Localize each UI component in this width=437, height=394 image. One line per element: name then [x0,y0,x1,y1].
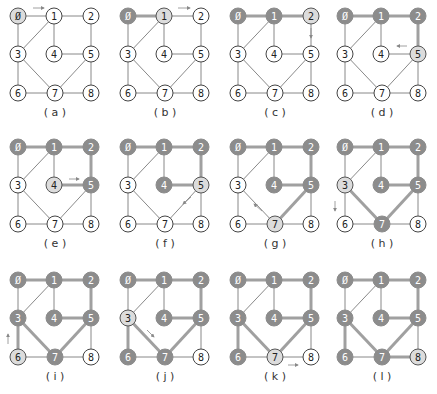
graph-node-1-unvisited: 1 [46,8,62,24]
graph-node-5-visited: 5 [303,177,319,193]
graph-node-3-visited: 3 [10,310,26,326]
graph-node-8-current: 8 [410,349,426,365]
panel-c: Ø12345678( c ) [230,8,319,119]
graph-node-0-visited: Ø [337,139,353,155]
graph-node-2-visited: 2 [83,139,99,155]
node-label: 1 [378,142,384,153]
node-label: 2 [415,275,421,286]
graph-node-5-unvisited: 5 [303,46,319,62]
graph-node-8-unvisited: 8 [83,349,99,365]
node-label: 2 [308,11,314,22]
graph-node-6-visited: 6 [230,349,246,365]
graph-node-6-unvisited: 6 [230,216,246,232]
node-label: 8 [198,88,204,99]
node-label: 3 [15,180,21,191]
panel-caption: ( c ) [264,106,286,119]
node-label: 8 [415,352,421,363]
graph-node-2-visited: 2 [83,272,99,288]
graph-node-6-visited: 6 [337,349,353,365]
node-label: 2 [88,11,94,22]
graph-node-0-visited: Ø [230,272,246,288]
node-label: 4 [271,49,277,60]
node-label: Ø [15,11,21,22]
graph-node-1-visited: 1 [373,8,389,24]
graph-node-3-unvisited: 3 [10,46,26,62]
graph-node-0-visited: Ø [10,139,26,155]
node-label: 8 [88,219,94,230]
node-label: 1 [161,142,167,153]
node-label: 2 [308,142,314,153]
panel-caption: ( f ) [155,237,174,250]
graph-node-6-visited: 6 [120,349,136,365]
node-label: 4 [161,313,167,324]
node-label: 1 [378,275,384,286]
node-label: 3 [125,180,131,191]
node-label: Ø [342,142,348,153]
graph-node-3-visited: 3 [337,310,353,326]
graph-node-8-unvisited: 8 [83,216,99,232]
graph-node-8-unvisited: 8 [303,216,319,232]
panel-caption: ( j ) [156,370,175,383]
node-label: 2 [198,11,204,22]
graph-node-7-current: 7 [267,216,283,232]
node-label: 5 [415,49,421,60]
node-label: 3 [125,313,131,324]
graph-node-1-visited: 1 [46,272,62,288]
panel-d: Ø12345678( d ) [337,8,426,119]
graph-node-2-visited: 2 [410,8,426,24]
node-label: 7 [379,219,385,230]
graph-node-5-unvisited: 5 [193,46,209,62]
node-label: 5 [198,313,204,324]
node-label: 2 [198,275,204,286]
node-label: 6 [235,219,241,230]
node-label: 4 [51,313,57,324]
panel-g: Ø12345678( g ) [230,139,319,250]
graph-node-2-visited: 2 [410,139,426,155]
graph-node-3-unvisited: 3 [120,177,136,193]
node-label: 1 [378,11,384,22]
panel-caption: ( g ) [264,237,287,250]
graph-node-1-visited: 1 [156,139,172,155]
node-label: 7 [52,219,58,230]
node-label: 2 [308,275,314,286]
graph-node-7-unvisited: 7 [47,216,63,232]
node-label: 3 [342,49,348,60]
node-label: 3 [342,180,348,191]
traversal-arrow-icon [254,204,262,211]
node-label: 8 [88,352,94,363]
graph-node-4-current: 4 [46,177,62,193]
node-label: Ø [125,142,131,153]
node-label: 8 [308,219,314,230]
node-label: 7 [379,88,385,99]
node-label: 5 [308,49,314,60]
panel-caption: ( a ) [44,106,66,119]
traversal-arrow-icon [183,197,191,204]
node-label: 6 [125,88,131,99]
node-label: 7 [162,352,168,363]
graph-node-5-unvisited: 5 [83,46,99,62]
graph-node-6-unvisited: 6 [120,85,136,101]
node-label: Ø [15,142,21,153]
node-label: 4 [378,180,384,191]
panel-caption: ( b ) [154,106,177,119]
panel-caption: ( e ) [44,237,66,250]
panel-f: Ø12345678( f ) [120,139,209,250]
graph-node-4-visited: 4 [373,177,389,193]
graph-node-4-visited: 4 [46,310,62,326]
graph-node-1-visited: 1 [373,272,389,288]
node-label: 6 [235,88,241,99]
graph-node-6-current: 6 [10,349,26,365]
node-label: 1 [161,275,167,286]
node-label: 6 [235,352,241,363]
graph-node-8-unvisited: 8 [193,85,209,101]
panel-a: Ø12345678( a ) [10,8,99,119]
graph-node-2-current: 2 [303,8,319,24]
graph-node-3-unvisited: 3 [10,177,26,193]
graph-node-3-unvisited: 3 [230,177,246,193]
graph-node-4-visited: 4 [266,177,282,193]
node-label: 6 [15,219,21,230]
graph-node-8-unvisited: 8 [410,216,426,232]
graph-node-8-unvisited: 8 [193,216,209,232]
graph-node-2-unvisited: 2 [193,8,209,24]
node-label: 7 [162,88,168,99]
